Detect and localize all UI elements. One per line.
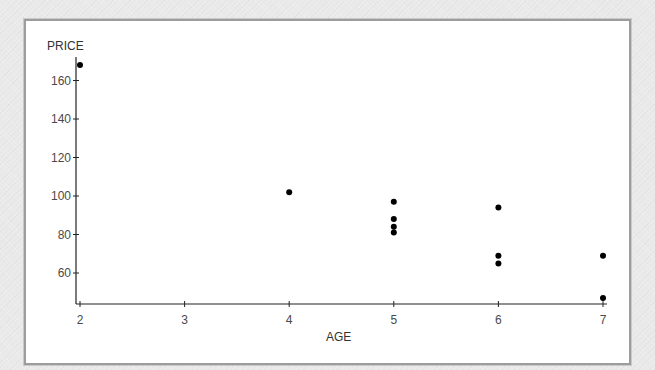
x-axis-label: AGE — [326, 330, 351, 344]
x-tick-label: 4 — [279, 314, 299, 326]
data-point — [495, 205, 501, 211]
axes — [73, 57, 607, 307]
x-tick-label: 6 — [488, 314, 508, 326]
y-tick-label: 80 — [41, 229, 71, 241]
data-points — [77, 62, 606, 301]
x-tick-label: 3 — [175, 314, 195, 326]
data-point — [77, 62, 83, 68]
data-point — [391, 199, 397, 205]
y-axis-label: PRICE — [47, 39, 84, 53]
x-tick-label: 2 — [70, 314, 90, 326]
y-tick-label: 100 — [41, 190, 71, 202]
x-tick-label: 5 — [384, 314, 404, 326]
data-point — [391, 230, 397, 236]
data-point — [495, 260, 501, 266]
y-tick-label: 140 — [41, 113, 71, 125]
data-point — [600, 253, 606, 259]
y-tick-label: 120 — [41, 152, 71, 164]
data-point — [286, 189, 292, 195]
data-point — [391, 224, 397, 230]
y-tick-label: 60 — [41, 267, 71, 279]
y-tick-label: 160 — [41, 75, 71, 87]
data-point — [600, 295, 606, 301]
scatter-plot — [0, 0, 655, 370]
data-point — [495, 253, 501, 259]
x-tick-label: 7 — [593, 314, 613, 326]
data-point — [391, 216, 397, 222]
